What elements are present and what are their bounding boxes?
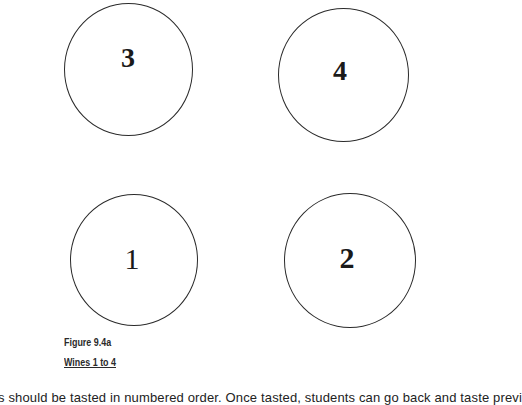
wine-number-2: 2 [332,243,362,273]
wine-number-3: 3 [113,44,143,72]
figure-caption-title: Figure 9.4a [64,336,111,348]
body-paragraph: s should be tasted in numbered order. On… [0,390,522,405]
figure-caption-subtitle: Wines 1 to 4 [64,356,116,368]
wine-number-1: 1 [117,244,147,274]
wine-number-4: 4 [325,57,355,85]
